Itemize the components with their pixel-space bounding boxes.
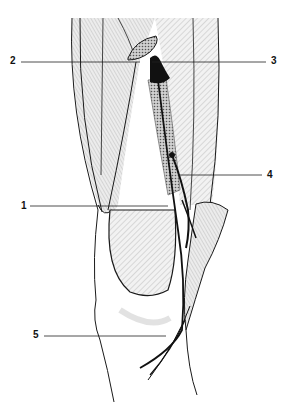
label-5: 5 [33,330,39,340]
label-2: 2 [10,56,16,66]
label-3: 3 [271,56,277,66]
skin-flap [184,202,228,330]
label-1: 1 [21,201,27,211]
anatomical-illustration [0,0,289,415]
patella [109,210,176,296]
label-4: 4 [267,170,273,180]
